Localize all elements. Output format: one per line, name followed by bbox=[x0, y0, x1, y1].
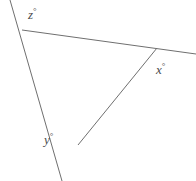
line-left-side-extended bbox=[10, 0, 62, 181]
degree-symbol-z: ° bbox=[33, 6, 37, 16]
angle-label-y: y° bbox=[44, 132, 53, 146]
line-right-side bbox=[78, 48, 157, 145]
angle-label-x: x° bbox=[156, 62, 165, 76]
degree-symbol-y: ° bbox=[50, 131, 54, 141]
degree-symbol-x: ° bbox=[162, 61, 166, 71]
angle-label-z: z° bbox=[28, 7, 37, 21]
geometry-figure: z° x° y° bbox=[0, 0, 196, 181]
line-top-side-extended bbox=[22, 30, 196, 54]
triangle-line-diagram bbox=[0, 0, 196, 181]
